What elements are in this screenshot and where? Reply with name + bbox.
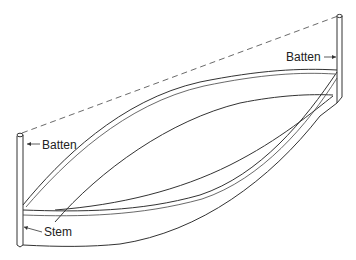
label-stem: Stem: [24, 222, 84, 244]
boat-hull-diagram: [0, 0, 356, 260]
stem-text: Stem: [44, 225, 72, 239]
batten-right-text: Batten: [286, 50, 321, 64]
arrow-stem-icon: Stem: [24, 222, 84, 240]
inner-sheer-upper: [55, 95, 333, 222]
arrow-right-icon: Batten: [286, 48, 338, 66]
label-batten-left: Batten: [26, 136, 106, 158]
left-batten: [17, 133, 23, 247]
batten-left-text: Batten: [42, 138, 77, 152]
label-batten-right: Batten: [286, 48, 338, 70]
arrow-left-icon: Batten: [26, 136, 106, 154]
